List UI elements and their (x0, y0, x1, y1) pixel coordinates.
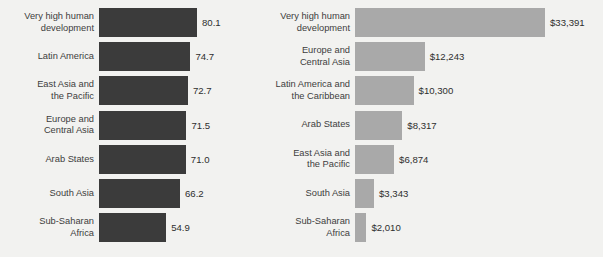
bar-value-label: $10,300 (414, 85, 454, 96)
bar-row: Very high human development$33,391 (255, 8, 603, 37)
bar-row-list-right: Very high human development$33,391Europe… (255, 0, 603, 257)
bar (99, 111, 186, 140)
bar-track: $33,391 (355, 8, 603, 37)
bar-track: 72.7 (99, 76, 255, 105)
bar-row: East Asia and the Pacific$6,874 (255, 145, 603, 174)
bar-track: 74.7 (99, 42, 255, 71)
bar (99, 179, 180, 208)
bar-track: $2,010 (355, 213, 603, 242)
bar-category-label: Very high human development (255, 11, 355, 34)
bar-value-label: $33,391 (545, 17, 585, 28)
bar-value-label: $8,317 (402, 120, 436, 131)
bar-track: 71.0 (99, 145, 255, 174)
bar (99, 145, 186, 174)
bar-value-label: $3,343 (374, 188, 408, 199)
bar-row: Arab States$8,317 (255, 111, 603, 140)
bar (355, 213, 366, 242)
bar-value-label: 71.5 (186, 120, 210, 131)
bar-row: South Asia66.2 (0, 179, 255, 208)
bar-category-label: East Asia and the Pacific (0, 79, 99, 102)
bar (99, 8, 197, 37)
bar-track: 54.9 (99, 213, 255, 242)
bar-row: East Asia and the Pacific72.7 (0, 76, 255, 105)
bar-row: Latin America and the Caribbean$10,300 (255, 76, 603, 105)
bar-value-label: $6,874 (394, 154, 428, 165)
bar-category-label: Arab States (255, 119, 355, 130)
bar-track: 80.1 (99, 8, 255, 37)
bar (355, 76, 414, 105)
bar-category-label: Europe and Central Asia (0, 114, 99, 137)
chart-panel-gross-national-income: Very high human development$33,391Europe… (255, 0, 603, 257)
bar-row: Arab States71.0 (0, 145, 255, 174)
bar-category-label: Arab States (0, 154, 99, 165)
bar-value-label: 74.7 (190, 51, 214, 62)
bar-category-label: South Asia (0, 188, 99, 199)
bar-track: $6,874 (355, 145, 603, 174)
bar-value-label: 54.9 (166, 222, 190, 233)
bar-value-label: $12,243 (425, 51, 465, 62)
bar-track: $8,317 (355, 111, 603, 140)
bar-category-label: South Asia (255, 188, 355, 199)
bar (355, 42, 425, 71)
bar (355, 111, 402, 140)
chart-panel-life-expectancy: Very high human development80.1Latin Ame… (0, 0, 255, 257)
bar-category-label: Latin America (0, 51, 99, 62)
bar-track: $3,343 (355, 179, 603, 208)
bar-value-label: 71.0 (186, 154, 210, 165)
bar-row: Sub-Saharan Africa$2,010 (255, 213, 603, 242)
bar (99, 76, 188, 105)
bar (99, 42, 190, 71)
bar-row: South Asia$3,343 (255, 179, 603, 208)
bar (355, 145, 394, 174)
bar-row: Europe and Central Asia$12,243 (255, 42, 603, 71)
bar-value-label: 66.2 (180, 188, 204, 199)
bar-track: $10,300 (355, 76, 603, 105)
bar (355, 179, 374, 208)
bar-category-label: Sub-Saharan Africa (255, 216, 355, 239)
bar-row: Latin America74.7 (0, 42, 255, 71)
bar-value-label: 80.1 (197, 17, 221, 28)
bar (99, 213, 166, 242)
bar-value-label: 72.7 (188, 85, 212, 96)
bar-track: 66.2 (99, 179, 255, 208)
bar-category-label: East Asia and the Pacific (255, 148, 355, 171)
figure-canvas: Very high human development80.1Latin Ame… (0, 0, 603, 257)
bar-category-label: Sub-Saharan Africa (0, 216, 99, 239)
bar-category-label: Very high human development (0, 11, 99, 34)
bar-row: Sub-Saharan Africa54.9 (0, 213, 255, 242)
bar-row-list-left: Very high human development80.1Latin Ame… (0, 0, 255, 257)
bar-track: 71.5 (99, 111, 255, 140)
bar-category-label: Europe and Central Asia (255, 45, 355, 68)
bar-track: $12,243 (355, 42, 603, 71)
bar-category-label: Latin America and the Caribbean (255, 79, 355, 102)
bar-row: Europe and Central Asia71.5 (0, 111, 255, 140)
bar (355, 8, 545, 37)
bar-value-label: $2,010 (366, 222, 400, 233)
bar-row: Very high human development80.1 (0, 8, 255, 37)
